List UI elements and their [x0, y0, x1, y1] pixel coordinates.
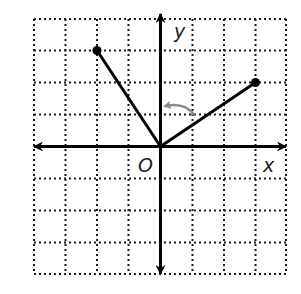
origin-label: O [138, 154, 153, 176]
coordinate-plane-figure: y x O [0, 0, 301, 294]
x-axis-label: x [262, 154, 275, 176]
y-axis-label: y [173, 20, 186, 42]
point-left [93, 46, 102, 55]
segments [97, 51, 256, 147]
point-right [251, 78, 260, 87]
coordinate-plane-svg: y x O [0, 0, 301, 294]
